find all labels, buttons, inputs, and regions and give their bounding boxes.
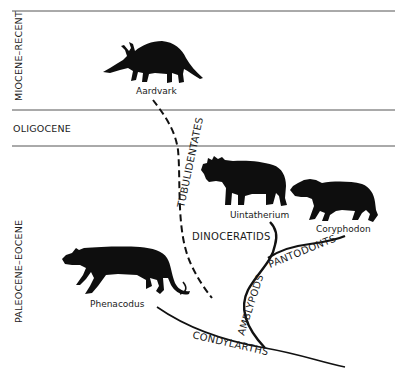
- animal-label-uintatherium: Uintatherium: [230, 210, 289, 220]
- animal-label-phenacodus: Phenacodus: [90, 299, 145, 309]
- animal-label-aardvark: Aardvark: [136, 86, 177, 96]
- clade-label-dinoceratids: DINOCERATIDS: [192, 231, 271, 242]
- aardvark-silhouette: [103, 41, 203, 83]
- phenacodus-silhouette: [62, 247, 190, 295]
- coryphodon-silhouette: [290, 179, 378, 222]
- era-label-oligocene: OLIGOCENE: [13, 123, 71, 134]
- era-label-miocene-recent: MIOCENE–RECENT: [13, 11, 24, 101]
- uintatherium-silhouette: [201, 156, 287, 206]
- clade-label-condylarths: CONDYLARTHS: [192, 329, 270, 357]
- era-label-paleocene-eocene: PALEOCENE–EOCENE: [13, 220, 24, 323]
- evolution-diagram: MIOCENE–RECENT OLIGOCENE PALEOCENE–EOCEN…: [0, 0, 406, 378]
- animal-label-coryphodon: Coryphodon: [316, 224, 371, 234]
